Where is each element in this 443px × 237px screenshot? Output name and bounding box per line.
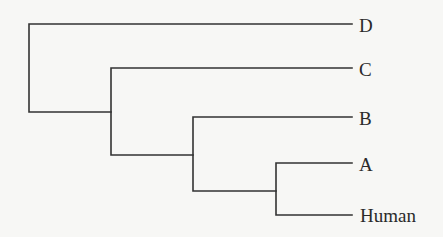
node-a-human [276, 163, 352, 215]
tree-branches [0, 0, 443, 237]
leaf-label-a: A [359, 155, 373, 174]
leaf-label-c: C [359, 60, 372, 79]
leaf-label-human: Human [360, 206, 416, 225]
node-c-clade [111, 68, 352, 155]
node-b-clade [193, 117, 352, 191]
leaf-label-d: D [359, 16, 373, 35]
leaf-label-b: B [359, 109, 372, 128]
